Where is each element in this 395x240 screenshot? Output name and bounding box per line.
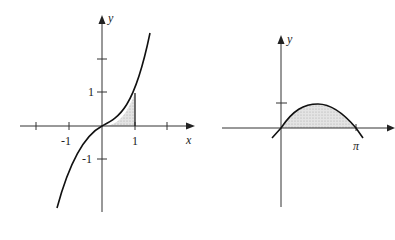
y-axis-label: y [107, 11, 114, 25]
x-axis-arrow-icon [387, 125, 395, 132]
y-axis-arrow-icon [99, 15, 106, 24]
x-axis-arrow-icon [186, 123, 195, 130]
sine-graph: y π [222, 32, 395, 207]
y-tick-label-neg1: -1 [82, 152, 92, 166]
x-tick-label-pi: π [353, 139, 360, 153]
cubic-graph: y x -1 1 1 -1 [20, 11, 195, 212]
x-axis-label: x [185, 133, 192, 147]
x-tick-label-neg1: -1 [61, 134, 71, 148]
y-axis-arrow-icon [278, 35, 285, 44]
x-tick-label-1: 1 [132, 134, 138, 148]
y-tick-label-1: 1 [88, 85, 94, 99]
figure-canvas: y x -1 1 1 -1 y π [0, 0, 395, 240]
y-axis-label: y [286, 32, 293, 46]
